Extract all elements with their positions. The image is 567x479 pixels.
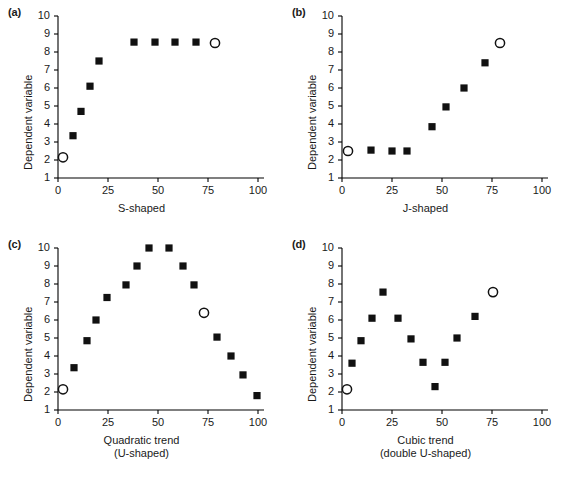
figure-container: (a)Dependent variable1234567891002550751… — [0, 0, 567, 479]
data-point-c-0-13 — [253, 392, 260, 399]
data-point-d-0-1 — [357, 337, 364, 344]
data-point-a-0-7 — [192, 39, 199, 46]
panel-c: (c)Dependent variable1234567891002550751… — [0, 232, 283, 471]
panel-a: (a)Dependent variable1234567891002550751… — [0, 0, 283, 239]
data-point-d-0-3 — [379, 289, 386, 296]
data-point-a-0-1 — [77, 108, 84, 115]
data-point-c-0-12 — [239, 371, 246, 378]
data-point-c-0-0 — [70, 364, 77, 371]
plot-area-b — [284, 0, 567, 239]
highlighted-point-d-1 — [488, 288, 497, 297]
data-point-c-0-8 — [179, 262, 186, 269]
data-point-d-0-0 — [348, 360, 355, 367]
panel-d: (d)Dependent variable1234567891002550751… — [284, 232, 567, 471]
data-point-c-0-11 — [227, 352, 234, 359]
data-point-d-0-6 — [419, 359, 426, 366]
highlighted-point-b-0 — [343, 146, 352, 155]
data-point-a-0-3 — [95, 57, 102, 64]
data-point-d-0-10 — [471, 313, 478, 320]
data-point-c-0-10 — [213, 334, 220, 341]
data-point-c-0-4 — [122, 281, 129, 288]
data-point-c-0-9 — [190, 281, 197, 288]
plot-area-c — [0, 232, 283, 471]
highlighted-point-a-1 — [210, 38, 219, 47]
highlighted-point-b-1 — [495, 38, 504, 47]
data-point-c-0-1 — [83, 337, 90, 344]
data-point-b-0-6 — [481, 59, 488, 66]
data-point-b-0-2 — [403, 147, 410, 154]
data-point-a-0-2 — [86, 83, 93, 90]
highlighted-point-c-0 — [58, 385, 67, 394]
plot-area-a — [0, 0, 283, 239]
data-point-a-0-6 — [171, 39, 178, 46]
data-point-c-0-6 — [145, 244, 152, 251]
data-point-d-0-8 — [441, 359, 448, 366]
highlighted-point-d-0 — [342, 385, 351, 394]
data-point-b-0-4 — [442, 103, 449, 110]
data-point-b-0-0 — [367, 147, 374, 154]
data-point-a-0-4 — [130, 39, 137, 46]
plot-area-d — [284, 232, 567, 471]
panel-b: (b)Dependent variable1234567891002550751… — [284, 0, 567, 239]
highlighted-point-c-1 — [199, 308, 208, 317]
data-point-d-0-5 — [407, 335, 414, 342]
data-point-a-0-0 — [69, 132, 76, 139]
data-point-d-0-9 — [453, 334, 460, 341]
data-point-c-0-2 — [92, 316, 99, 323]
data-point-b-0-5 — [460, 84, 467, 91]
data-point-d-0-2 — [368, 315, 375, 322]
data-point-c-0-7 — [165, 244, 172, 251]
data-point-c-0-3 — [103, 294, 110, 301]
data-point-b-0-3 — [428, 123, 435, 130]
data-point-d-0-4 — [394, 315, 401, 322]
data-point-b-0-1 — [388, 147, 395, 154]
data-point-c-0-5 — [133, 262, 140, 269]
highlighted-point-a-0 — [58, 153, 67, 162]
data-point-a-0-5 — [151, 39, 158, 46]
data-point-d-0-7 — [431, 383, 438, 390]
